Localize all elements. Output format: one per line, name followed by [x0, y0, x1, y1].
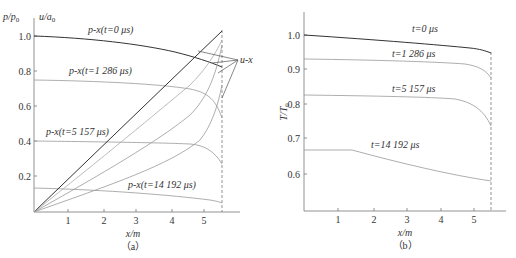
svg-text:1: 1	[66, 215, 71, 226]
svg-text:1.0: 1.0	[288, 30, 301, 41]
u-x-leaders	[198, 51, 238, 98]
x-ticks-a	[68, 209, 204, 212]
caption-b: （b）	[393, 240, 418, 251]
svg-text:0.9: 0.9	[288, 64, 301, 75]
svg-text:0.6: 0.6	[19, 101, 32, 112]
panel-a: 1.0 0.8 0.6 0.4 0.2 1 2 3 4 5 p/p0 u/a0 …	[2, 11, 253, 252]
p-curve-t0	[34, 36, 222, 67]
svg-text:3: 3	[134, 215, 139, 226]
x-tick-labels-a: 1 2 3 4 5	[66, 215, 207, 226]
svg-text:0.2: 0.2	[19, 171, 32, 182]
svg-text:3: 3	[405, 214, 410, 225]
y-label-b: T/T0	[278, 103, 291, 121]
y-ticks-b	[304, 35, 307, 174]
y-ticks-a	[34, 36, 37, 176]
svg-text:1: 1	[336, 214, 341, 225]
annotation-p-t1: p-x(t=1 286 μs)	[68, 65, 133, 77]
T-curve-t3	[304, 150, 491, 181]
annotation-T-t1: t=1 286 μs	[392, 48, 436, 59]
y-label-p: p/p0	[2, 11, 20, 24]
y-tick-labels-a: 1.0 0.8 0.6 0.4 0.2	[19, 31, 32, 182]
svg-text:0.7: 0.7	[288, 133, 301, 144]
y-label-u: u/a0	[39, 11, 56, 24]
annotation-p-t3: p-x(t=14 192 μs)	[127, 179, 197, 191]
svg-text:2: 2	[102, 215, 107, 226]
annotation-T-t2: t=5 157 μs	[392, 83, 436, 94]
x-label-a: x/m	[125, 228, 140, 239]
x-tick-labels-b: 1 2 3 4 5	[336, 214, 477, 225]
caption-a: （a）	[121, 241, 145, 252]
p-curve-t3	[34, 188, 222, 203]
svg-text:4: 4	[439, 214, 444, 225]
T-curve-t1	[304, 59, 491, 78]
annotation-u-x: u-x	[240, 54, 253, 65]
p-curve-t1	[34, 80, 222, 118]
svg-text:2: 2	[372, 214, 377, 225]
annotation-p-t2: p-x(t=5 157 μs)	[45, 126, 110, 138]
annotation-T-t0: t=0 μs	[412, 23, 438, 34]
T-curve-t2	[304, 95, 491, 126]
u-curve-t3	[34, 85, 222, 212]
annotation-p-t0: p-x(t=0 μs)	[87, 24, 134, 36]
svg-text:5: 5	[202, 215, 207, 226]
panel-b: 1.0 0.9 0.8 0.7 0.6 1 2 3 4 5 T/T0 x/m （…	[278, 12, 506, 251]
svg-text:1.0: 1.0	[19, 31, 32, 42]
svg-text:0.4: 0.4	[19, 136, 32, 147]
svg-text:0.8: 0.8	[19, 66, 32, 77]
svg-text:4: 4	[170, 215, 175, 226]
svg-text:5: 5	[472, 214, 477, 225]
x-label-b: x/m	[397, 227, 412, 238]
svg-text:0.6: 0.6	[288, 169, 301, 180]
x-ticks-b	[338, 208, 474, 211]
figure: 1.0 0.8 0.6 0.4 0.2 1 2 3 4 5 p/p0 u/a0 …	[0, 0, 516, 258]
annotation-T-t3: t=14 192 μs	[371, 139, 420, 150]
